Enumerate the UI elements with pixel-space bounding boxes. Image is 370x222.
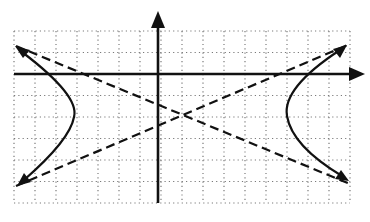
right-branch-bottom-arrow-icon bbox=[335, 170, 349, 181]
dotted-grid bbox=[14, 31, 350, 203]
left-hyperbola-branch bbox=[22, 52, 75, 180]
x-axis-arrow-icon bbox=[349, 67, 365, 81]
hyperbola-figure bbox=[0, 0, 370, 222]
y-axis-arrow-icon bbox=[151, 11, 165, 28]
asymptote-positive-slope bbox=[16, 44, 350, 186]
hyperbola-graph bbox=[0, 0, 370, 222]
right-hyperbola-branch bbox=[287, 50, 342, 176]
right-branch-top-arrow-icon bbox=[333, 45, 347, 58]
asymptote-negative-slope bbox=[16, 46, 350, 184]
